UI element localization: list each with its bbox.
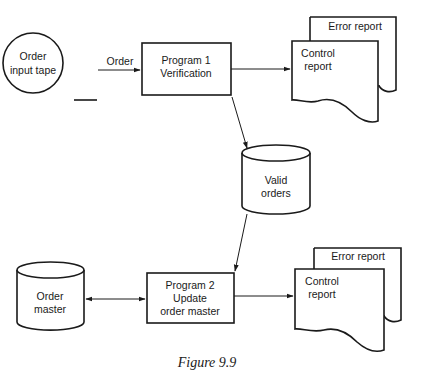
figure-caption: Figure 9.9	[177, 355, 237, 370]
edge-valid-orders-to-program2	[235, 214, 247, 271]
tape-label-line2: input tape	[10, 64, 56, 76]
program2-label-line3: order master	[160, 305, 220, 317]
valid-orders-node: Valid orders	[242, 145, 310, 214]
control-report-1-label-line2: report	[304, 60, 332, 72]
error-report-1-label: Error report	[328, 20, 382, 32]
edge-label-order: Order	[107, 55, 134, 67]
order-master-label-line1: Order	[37, 290, 64, 302]
disk-storage-top	[17, 262, 84, 278]
program1-node: Program 1 Verification	[142, 43, 231, 95]
program2-label-line2: Update	[173, 292, 207, 304]
order-master-label-line2: master	[34, 303, 67, 315]
report-stack-2: Error report Control report	[295, 248, 401, 351]
flowchart-diagram: Order input tape Order Program 1 Verific…	[0, 0, 421, 388]
report-stack-1: Error report Control report	[292, 17, 396, 122]
edge-program1-to-valid-orders	[232, 97, 247, 148]
tape-label-line1: Order	[20, 50, 47, 62]
control-report-2-label-line1: Control	[305, 275, 339, 287]
control-report-1-label-line1: Control	[301, 47, 335, 59]
disk-storage-top	[242, 145, 310, 161]
program1-label-line1: Program 1	[161, 54, 210, 66]
valid-orders-label-line1: Valid	[265, 174, 288, 186]
program1-label-line2: Verification	[160, 67, 212, 79]
order-input-tape-node: Order input tape	[3, 33, 97, 100]
program2-label-line1: Program 2	[165, 279, 214, 291]
edge-tape-to-program1: Order	[98, 55, 140, 70]
control-report-2-label-line2: report	[308, 288, 336, 300]
error-report-2-label: Error report	[331, 250, 385, 262]
valid-orders-label-line2: orders	[261, 187, 291, 199]
program2-node: Program 2 Update order master	[147, 273, 234, 323]
magnetic-tape-icon	[3, 33, 63, 93]
order-master-node: Order master	[17, 262, 84, 330]
